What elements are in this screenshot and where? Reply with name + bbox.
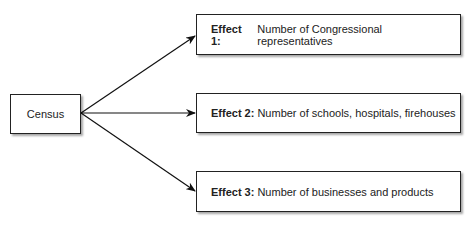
effect-2-title: Effect 2: [211, 107, 254, 119]
effect-1-node: Effect 1: Number of Congressional repres… [196, 14, 461, 55]
effect-3-title: Effect 3: [211, 186, 254, 198]
effect-3-node: Effect 3: Number of businesses and produ… [196, 171, 461, 212]
effect-1-text: Number of Congressional representatives [257, 23, 460, 47]
effect-2-text: Number of schools, hospitals, firehouses [257, 107, 455, 119]
census-node: Census [10, 94, 81, 134]
effect-1-title: Effect 1: [211, 23, 254, 47]
effect-3-text: Number of businesses and products [257, 186, 433, 198]
arrow-effect-1 [81, 36, 195, 113]
arrow-effect-3 [81, 113, 195, 191]
effect-2-node: Effect 2: Number of schools, hospitals, … [196, 93, 461, 133]
census-label: Census [27, 108, 64, 120]
